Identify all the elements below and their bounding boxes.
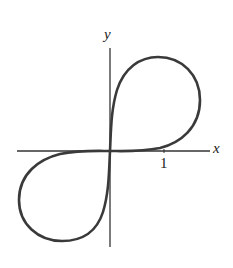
x-axis-label: x: [213, 141, 220, 156]
y-axis-label: y: [104, 27, 111, 42]
curve-upper-lobe: [110, 57, 200, 151]
x-tick-label-1: 1: [160, 156, 168, 171]
plot-canvas: [0, 0, 233, 268]
curve-lower-lobe: [19, 151, 110, 241]
